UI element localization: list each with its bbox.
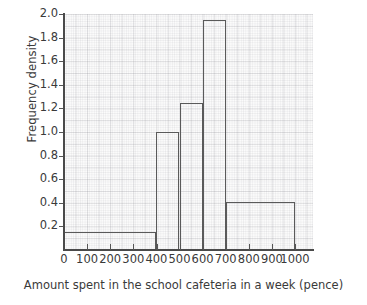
- y-axis-tick-label: 1.4: [32, 79, 58, 91]
- x-axis-tick-label: 800: [238, 254, 260, 266]
- x-axis-tick-mark: [226, 244, 227, 250]
- x-axis-tick-label: 600: [192, 254, 214, 266]
- x-axis-tick-mark: [156, 244, 157, 250]
- y-axis-tick-label: 0.6: [32, 173, 58, 185]
- x-axis-tick-mark: [272, 244, 273, 250]
- x-axis-tick-label: 200: [99, 254, 121, 266]
- x-axis-tick-label: 300: [122, 254, 144, 266]
- x-axis-tick-label: 400: [145, 254, 167, 266]
- histogram-bar: [180, 103, 203, 251]
- x-axis-title: Amount spent in the school cafeteria in …: [0, 278, 367, 292]
- plot-area: [64, 14, 313, 250]
- y-axis-tick-label: 0.2: [32, 220, 58, 232]
- y-axis-tick-label: 0.8: [32, 150, 58, 162]
- y-axis-tick-label: 1.2: [32, 102, 58, 114]
- x-axis-tick-label: 500: [169, 254, 191, 266]
- x-axis-tick-mark: [295, 244, 296, 250]
- y-axis-tick-label: 1.8: [32, 32, 58, 44]
- x-axis-tick-mark: [249, 244, 250, 250]
- x-axis-line: [63, 249, 314, 251]
- x-axis-tick-mark: [87, 244, 88, 250]
- y-axis-tick-label: 1.0: [32, 126, 58, 138]
- y-axis-tick-label: 1.6: [32, 55, 58, 67]
- x-axis-tick-label: 0: [60, 254, 67, 266]
- y-axis-tick-labels: 0.20.40.60.81.01.21.41.61.82.0: [30, 0, 58, 305]
- histogram-bar: [226, 202, 295, 250]
- histogram-chart: Frequency density 0.20.40.60.81.01.21.41…: [0, 0, 367, 305]
- x-axis-tick-label: 700: [215, 254, 237, 266]
- y-axis-tick-label: 2.0: [32, 8, 58, 20]
- x-axis-tick-mark: [110, 244, 111, 250]
- x-axis-tick-label: 1000: [280, 254, 309, 266]
- x-axis-tick-mark: [203, 244, 204, 250]
- y-axis-line: [63, 13, 65, 251]
- x-axis-tick-mark: [133, 244, 134, 250]
- y-axis-tick-label: 0.4: [32, 197, 58, 209]
- x-axis-tick-mark: [180, 244, 181, 250]
- histogram-bar: [156, 132, 179, 250]
- histogram-bar: [203, 20, 226, 250]
- x-axis-tick-label: 100: [76, 254, 98, 266]
